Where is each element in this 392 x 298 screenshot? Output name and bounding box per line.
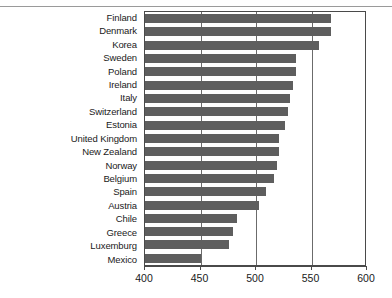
category-label: Austria bbox=[55, 199, 141, 212]
bar-row bbox=[145, 145, 365, 158]
category-label: Luxemburg bbox=[55, 239, 141, 252]
bar-row bbox=[145, 119, 365, 132]
bar-row bbox=[145, 12, 365, 25]
bar bbox=[145, 254, 201, 263]
axis-tick-label: 450 bbox=[191, 272, 209, 284]
bar bbox=[145, 81, 293, 90]
bar bbox=[145, 41, 319, 50]
category-label: New Zealand bbox=[55, 145, 141, 158]
axis-tick bbox=[366, 266, 367, 270]
category-label: Spain bbox=[55, 185, 141, 198]
bar bbox=[145, 54, 296, 63]
bar bbox=[145, 134, 279, 143]
bar-row bbox=[145, 39, 365, 52]
category-label: United Kingdom bbox=[55, 132, 141, 145]
category-label: Italy bbox=[55, 92, 141, 105]
bar-row bbox=[145, 185, 365, 198]
bar bbox=[145, 227, 233, 236]
axis-tick-label: 500 bbox=[246, 272, 264, 284]
bar-row bbox=[145, 198, 365, 211]
category-label: Finland bbox=[55, 11, 141, 24]
bar bbox=[145, 121, 285, 130]
bar-row bbox=[145, 92, 365, 105]
bar bbox=[145, 27, 331, 36]
bar bbox=[145, 187, 266, 196]
category-label: Korea bbox=[55, 38, 141, 51]
category-label: Sweden bbox=[55, 51, 141, 64]
bar-row bbox=[145, 252, 365, 265]
axis-tick bbox=[144, 266, 145, 270]
bar-row bbox=[145, 172, 365, 185]
bar bbox=[145, 161, 277, 170]
category-label: Chile bbox=[55, 212, 141, 225]
bar bbox=[145, 147, 279, 156]
bar bbox=[145, 174, 274, 183]
bar bbox=[145, 107, 288, 116]
category-label: Mexico bbox=[55, 253, 141, 266]
axis-tick bbox=[200, 266, 201, 270]
bar-row bbox=[145, 79, 365, 92]
category-label: Switzerland bbox=[55, 105, 141, 118]
category-label: Norway bbox=[55, 159, 141, 172]
axis-tick bbox=[311, 266, 312, 270]
category-label: Estonia bbox=[55, 118, 141, 131]
bar bbox=[145, 14, 331, 23]
axis-tick-label: 600 bbox=[357, 272, 375, 284]
category-axis-labels: FinlandDenmarkKoreaSwedenPolandIrelandIt… bbox=[55, 11, 141, 266]
axis-tick bbox=[255, 266, 256, 270]
bar-row bbox=[145, 65, 365, 78]
bar-row bbox=[145, 25, 365, 38]
category-label: Belgium bbox=[55, 172, 141, 185]
bar-row bbox=[145, 132, 365, 145]
value-axis: 400450500550600 bbox=[144, 266, 366, 296]
bar-row bbox=[145, 212, 365, 225]
category-label: Denmark bbox=[55, 24, 141, 37]
bar-row bbox=[145, 52, 365, 65]
bar-row bbox=[145, 225, 365, 238]
axis-tick-label: 550 bbox=[302, 272, 320, 284]
bar bbox=[145, 201, 259, 210]
bar bbox=[145, 240, 229, 249]
category-label: Ireland bbox=[55, 78, 141, 91]
page-top-rule bbox=[0, 6, 392, 7]
bar-row bbox=[145, 105, 365, 118]
bar bbox=[145, 94, 290, 103]
category-label: Poland bbox=[55, 65, 141, 78]
bar-series bbox=[145, 12, 365, 265]
bar-row bbox=[145, 238, 365, 251]
category-label: Greece bbox=[55, 226, 141, 239]
bar bbox=[145, 214, 237, 223]
bar-chart-figure: FinlandDenmarkKoreaSwedenPolandIrelandIt… bbox=[0, 0, 392, 298]
bar-row bbox=[145, 158, 365, 171]
axis-tick-label: 400 bbox=[135, 272, 153, 284]
bar bbox=[145, 67, 296, 76]
plot-area bbox=[144, 11, 366, 266]
